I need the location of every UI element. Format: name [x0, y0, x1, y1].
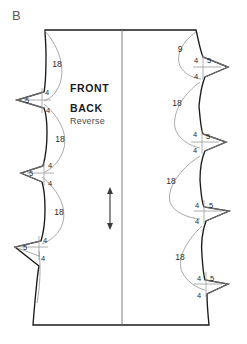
right-arc-label-1: 18: [172, 98, 182, 108]
left-arc-label-3: 18: [54, 207, 64, 217]
right-notch-2-lower-label: 4: [193, 146, 197, 155]
back-caption: BACK: [70, 102, 103, 114]
pattern-diagram-svg: 5 4 4 5 4 4 5 4 4 5 4 4: [0, 0, 247, 344]
right-notch-4-center-label: 5: [210, 274, 214, 283]
right-notch-2-upper-label: 4: [193, 130, 197, 139]
left-notch-3-upper-label: 4: [43, 236, 47, 245]
left-notch-3-lower-label: 4: [41, 254, 45, 263]
right-notch-1-upper-label: 4: [194, 56, 198, 65]
left-notch-1-upper-label: 4: [45, 88, 49, 97]
right-arc-label-3: 18: [175, 252, 185, 262]
right-arc-label-0: 9: [178, 44, 183, 54]
right-notch-1-center-label: 5: [207, 56, 211, 65]
left-notch-1-lower-label: 4: [46, 106, 50, 115]
right-notch-3-lower-label: 4: [195, 217, 199, 226]
left-notch-2-upper-label: 4: [48, 161, 52, 170]
right-notch-4-upper-label: 4: [197, 274, 201, 283]
left-arc-label-1: 18: [52, 59, 62, 69]
right-arc-label-2: 18: [166, 176, 176, 186]
left-notch-3-center-label: 5: [23, 243, 27, 252]
right-notch-2-center-label: 5: [206, 132, 210, 141]
left-arc-label-2: 18: [55, 134, 65, 144]
front-caption: FRONT: [70, 82, 109, 94]
left-notch-1-center-label: 5: [25, 96, 29, 105]
reverse-caption: Reverse: [70, 116, 105, 126]
plate-label: B: [12, 8, 21, 23]
right-notch-1-lower-label: 4: [194, 72, 198, 81]
right-notch-4-lower-label: 4: [197, 291, 201, 300]
pattern-figure: 5 4 4 5 4 4 5 4 4 5 4 4: [0, 0, 247, 344]
right-notch-3-upper-label: 4: [195, 201, 199, 210]
left-notch-2-center-label: 5: [29, 169, 33, 178]
right-notch-3-center-label: 5: [209, 201, 213, 210]
left-notch-2-lower-label: 4: [48, 179, 52, 188]
